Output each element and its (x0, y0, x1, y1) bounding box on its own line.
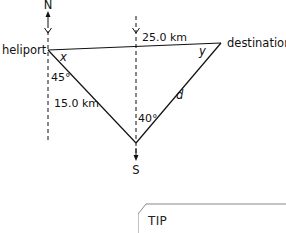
angle-x-label: x (59, 50, 67, 64)
angle-45-label: 45° (51, 71, 71, 84)
heliport-label: heliport (2, 43, 47, 57)
angle-40-label: 40° (138, 112, 158, 125)
side-d-label: d (176, 88, 184, 102)
distance-25km-label: 25.0 km (142, 31, 187, 44)
north-label: N (44, 0, 53, 12)
tip-label: TIP (148, 214, 167, 228)
parallel-marker-icon (45, 28, 52, 33)
south-arrow-icon (134, 155, 139, 161)
distance-15km-label: 15.0 km (54, 97, 99, 110)
south-label: S (132, 163, 139, 177)
destination-label: destination (227, 36, 286, 50)
angle-y-label: y (198, 44, 206, 58)
side-heliport-destination (48, 43, 221, 50)
bearing-diagram: N S heliport destination 25.0 km 15.0 km… (0, 0, 286, 233)
